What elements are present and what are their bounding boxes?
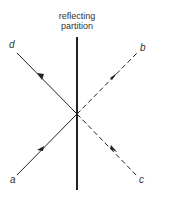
ray-d <box>17 53 77 114</box>
diagram-lines <box>0 0 177 198</box>
ray-c <box>77 114 137 176</box>
label-b: b <box>140 43 146 53</box>
reflection-diagram: reflecting partition d b a c <box>0 0 177 198</box>
label-d: d <box>9 40 15 50</box>
arrow-b-icon <box>110 73 117 80</box>
label-a: a <box>10 175 16 185</box>
label-c: c <box>139 175 144 185</box>
arrow-a-icon <box>37 146 44 151</box>
arrow-c-icon <box>110 145 117 152</box>
ray-b <box>77 53 137 114</box>
ray-a <box>17 114 77 175</box>
